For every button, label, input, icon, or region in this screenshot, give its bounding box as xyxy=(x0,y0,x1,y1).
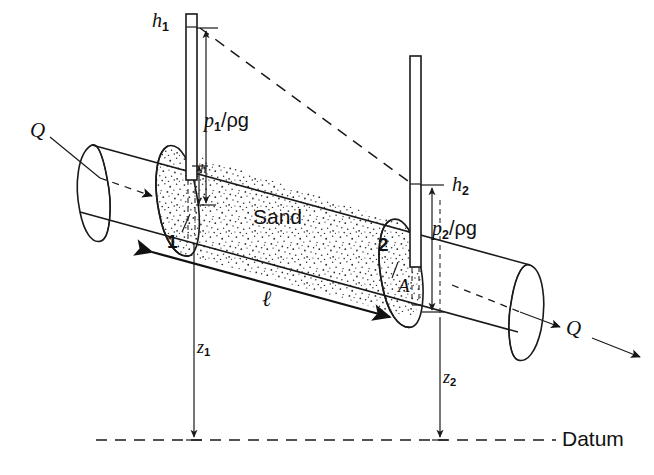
inlet-flow-group xyxy=(50,137,152,196)
label-sand: Sand xyxy=(253,206,302,227)
label-flow-in: Q xyxy=(30,120,45,141)
label-z2: z2 xyxy=(443,368,456,389)
label-datum: Datum xyxy=(562,428,624,449)
label-area: A xyxy=(398,276,410,295)
label-p1-over-rho-g: p1/ρg xyxy=(204,110,249,133)
label-flow-out: Q xyxy=(566,318,581,339)
label-h2: h2 xyxy=(452,174,469,197)
label-head-loss: h xyxy=(200,162,207,175)
label-h1: h1 xyxy=(152,10,169,33)
pipe-inlet-inner-curve xyxy=(92,145,110,241)
label-length: ℓ xyxy=(262,288,271,310)
darcy-permeameter-figure: h1 h2 p1/ρg p2/ρg Q Q Sand 1 2 A ℓ h xyxy=(0,0,654,475)
label-p2-over-rho-g: p2/ρg xyxy=(432,218,477,241)
label-section-1: 1 xyxy=(167,232,178,251)
outlet-flow-arrow-tail xyxy=(592,338,640,357)
pipe-inlet-mouth xyxy=(77,145,110,242)
standpipe-2 xyxy=(410,56,421,305)
standpipe-2-tube xyxy=(410,56,421,267)
pipe-outlet-inner-curve xyxy=(509,265,530,360)
standpipe-1-tube xyxy=(186,14,197,180)
label-section-2: 2 xyxy=(378,235,389,254)
label-z1: z1 xyxy=(197,338,210,359)
diagram-canvas xyxy=(0,0,654,475)
outlet-flow-arrow xyxy=(520,312,560,327)
pipe-outlet-mouth xyxy=(509,265,544,361)
pipe-cylinder xyxy=(77,145,543,361)
hydraulic-grade-line xyxy=(200,28,412,184)
inlet-flow-leader xyxy=(50,137,100,178)
